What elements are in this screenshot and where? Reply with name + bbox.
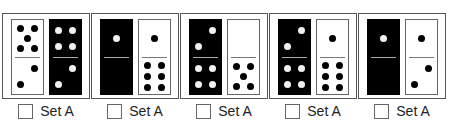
domino-half-bottom	[228, 58, 259, 95]
domino-divider	[409, 57, 434, 58]
set-a-option-5[interactable]: Set A	[358, 101, 446, 121]
pip-icon	[24, 35, 31, 42]
domino-half-top	[368, 20, 399, 57]
domino-tile-right	[405, 19, 438, 95]
domino-half-top	[12, 20, 43, 57]
domino-panels	[2, 13, 446, 99]
domino-half-top	[101, 20, 132, 57]
domino-half-top	[406, 20, 437, 57]
pip-icon	[69, 43, 76, 50]
pip-icon	[209, 27, 216, 34]
domino-half-bottom	[12, 58, 43, 95]
pip-icon	[69, 27, 76, 34]
pip-icon	[336, 62, 343, 69]
pip-icon	[411, 81, 418, 88]
domino-divider	[371, 57, 396, 58]
pip-icon	[380, 35, 387, 42]
domino-divider	[15, 57, 40, 58]
domino-half-top	[228, 20, 259, 57]
domino-half-top	[317, 20, 348, 57]
domino-tile-left	[100, 19, 133, 95]
pip-icon	[233, 63, 240, 70]
pip-icon	[247, 63, 254, 70]
set-a-label: Set A	[396, 103, 429, 119]
pip-icon	[195, 65, 202, 72]
set-a-label: Set A	[40, 103, 73, 119]
pip-icon	[31, 45, 38, 52]
domino-divider	[193, 57, 218, 58]
pip-icon	[240, 73, 247, 80]
set-a-option-3[interactable]: Set A	[180, 101, 268, 121]
set-a-checkbox[interactable]	[107, 104, 122, 119]
domino-half-bottom	[368, 58, 399, 95]
domino-divider	[231, 57, 256, 58]
pip-icon	[17, 45, 24, 52]
domino-divider	[142, 57, 167, 58]
pip-icon	[55, 81, 62, 88]
pip-icon	[195, 43, 202, 50]
pip-icon	[298, 81, 305, 88]
domino-panel-1	[2, 13, 90, 99]
set-a-label: Set A	[307, 103, 340, 119]
set-a-label: Set A	[218, 103, 251, 119]
domino-half-bottom	[406, 58, 437, 95]
pip-icon	[144, 84, 151, 91]
set-a-option-1[interactable]: Set A	[2, 101, 90, 121]
set-a-option-2[interactable]: Set A	[91, 101, 179, 121]
pip-icon	[284, 43, 291, 50]
pip-icon	[31, 65, 38, 72]
domino-half-top	[190, 20, 221, 57]
pip-icon	[322, 62, 329, 69]
domino-tile-right	[49, 19, 82, 95]
pip-icon	[158, 73, 165, 80]
pip-icon	[17, 25, 24, 32]
pip-icon	[31, 25, 38, 32]
domino-divider	[320, 57, 345, 58]
set-a-checkbox[interactable]	[18, 104, 33, 119]
domino-tile-left	[11, 19, 44, 95]
domino-half-top	[139, 20, 170, 57]
domino-tile-right	[138, 19, 171, 95]
pip-icon	[298, 65, 305, 72]
domino-tile-left	[278, 19, 311, 95]
domino-panel-4	[269, 13, 357, 99]
pip-icon	[425, 65, 432, 72]
domino-half-bottom	[101, 58, 132, 95]
pip-icon	[418, 35, 425, 42]
pip-icon	[55, 27, 62, 34]
pip-icon	[195, 81, 202, 88]
domino-half-bottom	[190, 58, 221, 95]
pip-icon	[298, 27, 305, 34]
domino-half-top	[279, 20, 310, 57]
pip-icon	[151, 35, 158, 42]
set-a-option-4[interactable]: Set A	[269, 101, 357, 121]
domino-tile-right	[316, 19, 349, 95]
domino-half-top	[50, 20, 81, 57]
domino-half-bottom	[139, 58, 170, 95]
pip-icon	[247, 83, 254, 90]
pip-icon	[144, 62, 151, 69]
pip-icon	[55, 43, 62, 50]
domino-panel-3	[180, 13, 268, 99]
domino-half-bottom	[50, 58, 81, 95]
set-a-checkbox[interactable]	[196, 104, 211, 119]
pip-icon	[17, 81, 24, 88]
pip-icon	[158, 62, 165, 69]
pip-icon	[329, 35, 336, 42]
pip-icon	[158, 84, 165, 91]
pip-icon	[209, 81, 216, 88]
pip-icon	[336, 73, 343, 80]
pip-icon	[209, 65, 216, 72]
domino-divider	[53, 57, 78, 58]
pip-icon	[284, 81, 291, 88]
pip-icon	[144, 73, 151, 80]
domino-tile-left	[367, 19, 400, 95]
set-a-checkbox[interactable]	[285, 104, 300, 119]
set-a-checkbox[interactable]	[374, 104, 389, 119]
domino-panel-5	[358, 13, 446, 99]
pip-icon	[69, 65, 76, 72]
pip-icon	[322, 73, 329, 80]
pip-icon	[233, 83, 240, 90]
domino-divider	[282, 57, 307, 58]
domino-panel-2	[91, 13, 179, 99]
